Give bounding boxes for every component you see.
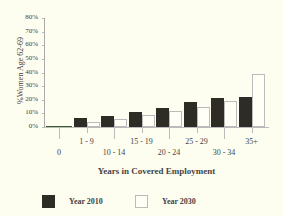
bar-year-2010 (156, 108, 169, 127)
y-tick-label: 80% (14, 13, 38, 21)
bar-year-2030 (114, 119, 127, 127)
x-tick-mark (224, 127, 225, 139)
y-tick-label: 0% (14, 122, 38, 130)
legend-label-2010: Year 2010 (69, 197, 103, 206)
bar-year-2030 (59, 126, 72, 127)
bar-year-2010 (211, 98, 224, 127)
x-tick-mark (197, 127, 198, 133)
x-tick-label: 30 - 34 (213, 148, 236, 157)
legend-item-2030: Year 2030 (135, 195, 196, 208)
y-tick-label: 70% (14, 27, 38, 35)
y-tick-label: 20% (14, 95, 38, 103)
x-tick-mark (59, 127, 60, 139)
y-tick-label: 50% (14, 54, 38, 62)
bar-year-2010 (46, 126, 59, 127)
bar-year-2010 (239, 97, 252, 127)
y-axis-line (44, 18, 45, 128)
bar-year-2030 (197, 107, 210, 127)
legend-label-2030: Year 2030 (162, 197, 196, 206)
bar-year-2010 (184, 102, 197, 127)
y-tick-label: 10% (14, 108, 38, 116)
x-tick-label: 10 - 14 (103, 148, 126, 157)
bar-year-2010 (101, 116, 114, 127)
x-tick-label: 1 - 9 (79, 137, 94, 146)
x-tick-label: 20 - 24 (158, 148, 181, 157)
x-tick-mark (87, 127, 88, 133)
legend-item-2010: Year 2010 (42, 195, 103, 208)
x-tick-label: 25 - 29 (185, 137, 208, 146)
y-tick-label: 30% (14, 81, 38, 89)
bar-year-2030 (87, 122, 100, 127)
x-tick-mark (142, 127, 143, 133)
bar-year-2030 (252, 74, 265, 127)
legend-swatch-2030 (135, 195, 148, 208)
x-tick-mark (252, 127, 253, 133)
legend-swatch-2010 (42, 195, 55, 208)
x-tick-label: 0 (57, 148, 61, 157)
bar-year-2030 (142, 115, 155, 127)
bar-year-2030 (169, 111, 182, 127)
bar-year-2010 (129, 112, 142, 127)
x-axis-line (44, 127, 269, 128)
bar-year-2010 (74, 118, 87, 127)
x-tick-mark (114, 127, 115, 139)
bar-year-2030 (224, 101, 237, 127)
x-tick-label: 15 - 19 (130, 137, 153, 146)
x-tick-mark (169, 127, 170, 139)
y-tick-label: 60% (14, 40, 38, 48)
x-tick-label: 35+ (245, 137, 258, 146)
x-axis-title: Years in Covered Employment (44, 166, 269, 176)
y-tick-label: 40% (14, 68, 38, 76)
